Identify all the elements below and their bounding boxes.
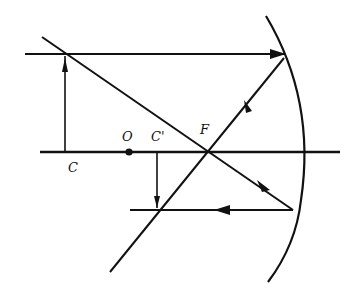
label-C-prime: C' xyxy=(151,129,165,144)
pole-dot xyxy=(125,148,132,155)
object-arrowhead-icon xyxy=(62,58,68,72)
label-O: O xyxy=(122,129,133,144)
reflected-ray-through-focus xyxy=(110,58,284,272)
parallel-return-arrowhead-icon xyxy=(214,205,230,215)
label-F: F xyxy=(199,122,210,137)
label-C: C xyxy=(68,160,78,175)
incident-ray-through-focus xyxy=(42,37,293,210)
image-arrowhead-icon xyxy=(154,196,160,208)
ray-diagram: C O C' F xyxy=(0,0,354,295)
